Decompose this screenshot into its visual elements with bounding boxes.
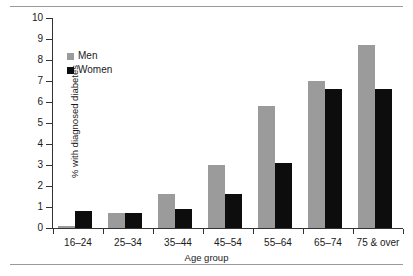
y-tick-mark xyxy=(46,60,52,61)
y-tick-mark xyxy=(46,228,52,229)
y-tick-mark xyxy=(46,81,52,82)
y-tick-label: 1 xyxy=(26,202,43,212)
y-tick-label: 7 xyxy=(26,76,43,86)
legend-swatch-women-icon xyxy=(67,67,74,74)
bar-women-2 xyxy=(175,209,192,228)
bar-men-4 xyxy=(258,106,275,228)
x-tick-mark xyxy=(53,229,54,234)
bar-men-0 xyxy=(58,226,75,228)
x-tick-mark xyxy=(403,229,404,234)
bar-group xyxy=(153,18,203,228)
x-axis-title: Age group xyxy=(0,252,413,263)
y-tick-label: 8 xyxy=(26,55,43,65)
y-tick-mark xyxy=(46,18,52,19)
bar-group xyxy=(353,18,403,228)
x-category-label: 75 & over xyxy=(343,238,413,248)
y-tick-label: 3 xyxy=(26,160,43,170)
chart-figure: 012345678910 % with diagnosed diabetes 1… xyxy=(0,0,413,276)
bar-men-5 xyxy=(308,81,325,228)
y-tick-label: 4 xyxy=(26,139,43,149)
x-axis-line xyxy=(52,228,403,229)
x-tick-mark xyxy=(103,229,104,234)
y-tick-mark xyxy=(46,165,52,166)
bar-men-1 xyxy=(108,213,125,228)
legend-item-women: Women xyxy=(67,64,112,76)
y-tick-label: 9 xyxy=(26,34,43,44)
y-tick-label: 6 xyxy=(26,97,43,107)
bar-women-6 xyxy=(375,89,392,228)
y-tick-label: 5 xyxy=(26,118,43,128)
x-tick-mark xyxy=(253,229,254,234)
y-tick-label: 2 xyxy=(26,181,43,191)
bar-women-4 xyxy=(275,163,292,228)
bar-men-3 xyxy=(208,165,225,228)
bar-women-5 xyxy=(325,89,342,228)
y-tick-mark xyxy=(46,144,52,145)
chart-legend: Men Women xyxy=(67,50,112,78)
bar-group xyxy=(303,18,353,228)
y-tick-mark xyxy=(46,207,52,208)
bar-women-1 xyxy=(125,213,142,228)
bar-group xyxy=(253,18,303,228)
y-tick-mark xyxy=(46,123,52,124)
bar-women-0 xyxy=(75,211,92,228)
x-tick-mark xyxy=(353,229,354,234)
bottom-rule xyxy=(10,264,403,265)
legend-label-men: Men xyxy=(78,51,97,61)
top-rule xyxy=(10,6,403,7)
bar-group xyxy=(203,18,253,228)
y-tick-mark xyxy=(46,102,52,103)
y-tick-mark xyxy=(46,186,52,187)
bar-women-3 xyxy=(225,194,242,228)
y-tick-label: 0 xyxy=(26,223,43,233)
x-tick-mark xyxy=(303,229,304,234)
bar-men-2 xyxy=(158,194,175,228)
bar-men-6 xyxy=(358,45,375,228)
legend-item-men: Men xyxy=(67,50,112,62)
x-tick-mark xyxy=(153,229,154,234)
y-tick-label: 10 xyxy=(26,13,43,23)
x-tick-mark xyxy=(203,229,204,234)
legend-swatch-men-icon xyxy=(67,53,74,60)
y-tick-mark xyxy=(46,39,52,40)
legend-label-women: Women xyxy=(78,65,112,75)
